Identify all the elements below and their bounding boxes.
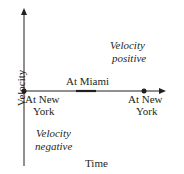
- end-new-york-label-line1: At New: [128, 93, 163, 105]
- velocity-positive-label-line1: Velocity: [110, 39, 145, 51]
- end-new-york-label-line2: York: [136, 105, 158, 117]
- diagram-canvas: [0, 0, 184, 174]
- velocity-negative-label-line1: Velocity: [36, 127, 71, 139]
- x-axis-label: Time: [85, 157, 108, 169]
- velocity-negative-label-line2: negative: [35, 140, 72, 152]
- start-new-york-label-line2: York: [33, 105, 55, 117]
- start-new-york-label-line1: At New: [25, 93, 60, 105]
- y-axis-arrowhead-icon: [21, 8, 27, 15]
- at-miami-label: At Miami: [66, 75, 109, 87]
- velocity-positive-label-line2: positive: [112, 52, 146, 64]
